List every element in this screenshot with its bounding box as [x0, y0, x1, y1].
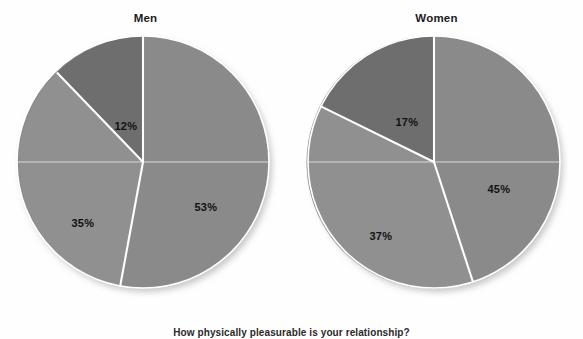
pie-slice-label-women-3: 17% [396, 116, 419, 128]
pie-panel-women: Women [291, 0, 582, 339]
chart-caption: How physically pleasurable is your relat… [0, 327, 583, 338]
pie-slice-label-men-3: 12% [115, 120, 138, 132]
chart-title-men: Men [0, 12, 291, 24]
pie-slice-label-men-2: 35% [72, 217, 95, 229]
pie-slice-label-women-1: 45% [488, 183, 511, 195]
chart-canvas: Men [0, 0, 583, 339]
pie-chart-men: 53% 35% 12% [15, 31, 277, 297]
pie-chart-women: 45% 37% 17% [306, 31, 568, 297]
pie-slice-label-women-2: 37% [370, 230, 393, 242]
chart-title-women: Women [291, 12, 582, 24]
pie-slice-label-men-1: 53% [195, 201, 218, 213]
pie-svg-men [15, 31, 277, 297]
pie-svg-women [306, 31, 568, 297]
pie-panel-men: Men [0, 0, 291, 339]
